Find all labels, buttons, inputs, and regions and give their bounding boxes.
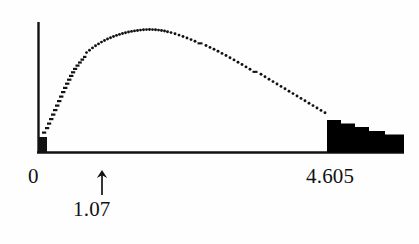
rejection-region-fill <box>327 120 404 153</box>
x-axis-label-origin: 0 <box>28 166 39 187</box>
up-arrow-icon <box>92 168 112 196</box>
x-axis-label-critical-value: 4.605 <box>306 166 354 187</box>
power-curve-figure: 0 4.605 1.07 <box>0 0 419 244</box>
x-axis-label-marked-point: 1.07 <box>73 199 111 220</box>
plot-canvas <box>0 0 419 244</box>
density-curve-dots <box>42 28 326 134</box>
left-tail-block <box>39 137 47 152</box>
